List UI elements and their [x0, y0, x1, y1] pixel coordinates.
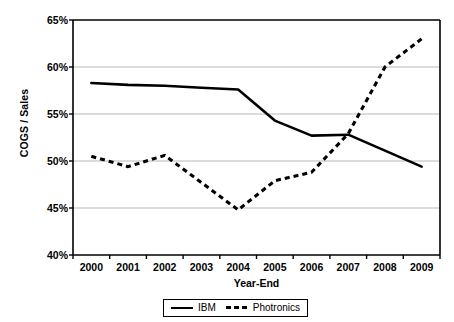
- legend-item-ibm: IBM: [171, 302, 216, 313]
- solid-line-swatch-icon: [171, 307, 193, 309]
- legend-item-photronics: Photronics: [226, 302, 300, 313]
- dashed-line-swatch-icon: [226, 306, 248, 309]
- x-tick-label: 2009: [400, 262, 444, 273]
- chart-legend: IBM Photronics: [163, 299, 308, 317]
- legend-label-photronics: Photronics: [253, 302, 300, 313]
- x-axis-tick-labels: 2000200120022003200420052006200720082009: [0, 0, 454, 322]
- legend-label-ibm: IBM: [198, 302, 216, 313]
- line-chart: COGS / Sales Year-End 40%45%50%55%60%65%…: [0, 0, 454, 322]
